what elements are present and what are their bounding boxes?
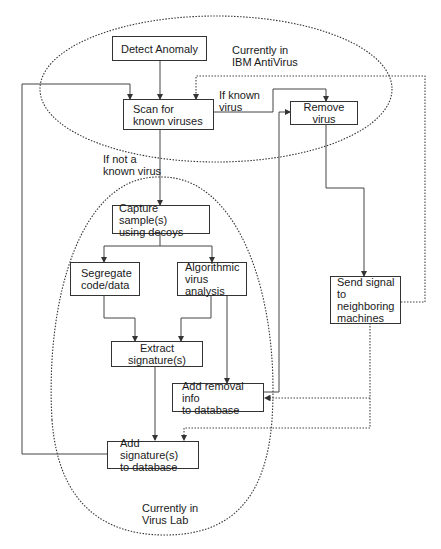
node-capture-samples: Capture sample(s) using decoys: [112, 205, 210, 234]
node-segregate-code-data: Segregate code/data: [70, 262, 140, 296]
edge-label-if-not-known-virus: If not a known virus: [103, 153, 161, 177]
node-algorithmic-analysis: Algorithmic virus analysis: [177, 262, 247, 296]
virus-lab-region-label: Currently in Virus Lab: [142, 502, 198, 526]
node-remove-virus: Remove virus: [290, 101, 358, 125]
node-add-removal-info: Add removal info to database: [172, 383, 264, 412]
edge-label-if-known-virus: If known virus: [219, 89, 260, 113]
node-scan-known-viruses: Scan for known viruses: [123, 99, 214, 130]
node-extract-signatures: Extract signature(s): [111, 341, 203, 367]
node-detect-anomaly: Detect Anomaly: [112, 36, 207, 61]
ibm-antivirus-region: [40, 16, 392, 162]
node-add-signatures-db: Add signature(s) to database: [107, 441, 199, 469]
ibm-antivirus-region-label: Currently in IBM AntiVirus: [232, 44, 298, 68]
node-send-signal: Send signal to neighboring machines: [330, 276, 401, 324]
